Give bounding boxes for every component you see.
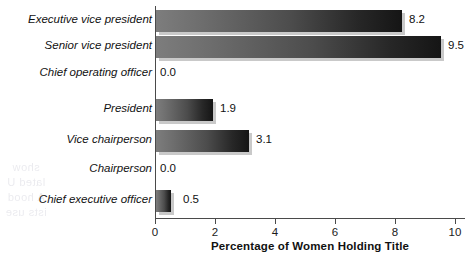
bar-executive-vice-president bbox=[156, 10, 402, 32]
value-label-executive-vice-president: 8.2 bbox=[409, 13, 425, 25]
bar-row: President 1.9 bbox=[0, 99, 476, 121]
bar-row: Chairperson 0.0 bbox=[0, 159, 476, 181]
category-label-president: President bbox=[103, 102, 152, 114]
value-label-senior-vice-president: 9.5 bbox=[448, 39, 464, 51]
value-label-chief-executive-officer: 0.5 bbox=[183, 193, 199, 205]
bar-row: Vice chairperson 3.1 bbox=[0, 130, 476, 152]
bar-fill bbox=[156, 10, 402, 32]
category-label-chairperson: Chairperson bbox=[89, 162, 152, 174]
x-tick-label-10: 10 bbox=[449, 226, 462, 238]
x-tick-10 bbox=[455, 219, 456, 224]
value-label-vice-chairperson: 3.1 bbox=[256, 133, 272, 145]
bar-row: Chief operating officer 0.0 bbox=[0, 63, 476, 85]
bar-fill bbox=[156, 190, 171, 212]
bar-row: Senior vice president 9.5 bbox=[0, 36, 476, 58]
value-label-chief-operating-officer: 0.0 bbox=[160, 66, 176, 78]
x-tick-label-8: 8 bbox=[392, 226, 398, 238]
bar-fill bbox=[156, 36, 441, 58]
category-label-senior-vice-president: Senior vice president bbox=[45, 39, 152, 51]
value-label-chairperson: 0.0 bbox=[160, 162, 176, 174]
bar-chart: show lated U A hood ists use Executive v… bbox=[0, 0, 476, 264]
category-label-chief-executive-officer: Chief executive officer bbox=[39, 193, 152, 205]
x-tick-8 bbox=[395, 219, 396, 224]
category-label-vice-chairperson: Vice chairperson bbox=[67, 133, 152, 145]
x-tick-4 bbox=[275, 219, 276, 224]
bar-chief-executive-officer bbox=[156, 190, 171, 212]
bar-senior-vice-president bbox=[156, 36, 441, 58]
x-tick-label-4: 4 bbox=[272, 226, 278, 238]
bar-fill bbox=[156, 99, 213, 121]
bar-row: Executive vice president 8.2 bbox=[0, 10, 476, 32]
x-tick-2 bbox=[215, 219, 216, 224]
bar-fill bbox=[156, 130, 249, 152]
category-label-executive-vice-president: Executive vice president bbox=[28, 13, 152, 25]
value-label-president: 1.9 bbox=[220, 102, 236, 114]
x-tick-0 bbox=[155, 219, 156, 224]
bar-president bbox=[156, 99, 213, 121]
bar-row: Chief executive officer 0.5 bbox=[0, 190, 476, 212]
x-tick-6 bbox=[335, 219, 336, 224]
bar-vice-chairperson bbox=[156, 130, 249, 152]
x-tick-label-0: 0 bbox=[152, 226, 158, 238]
x-axis-line bbox=[155, 218, 465, 219]
x-tick-label-2: 2 bbox=[212, 226, 218, 238]
category-label-chief-operating-officer: Chief operating officer bbox=[39, 66, 152, 78]
x-tick-label-6: 6 bbox=[332, 226, 338, 238]
plot-area: Executive vice president 8.2 Senior vice… bbox=[0, 0, 476, 264]
x-axis-title: Percentage of Women Holding Title bbox=[155, 240, 465, 252]
